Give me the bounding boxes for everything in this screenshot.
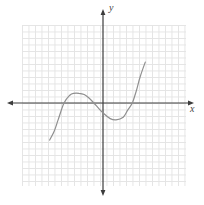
y-axis-bottom-arrow-icon [101,190,106,196]
x-axis-left-arrow-icon [7,101,13,106]
function-curve [50,62,146,140]
function-graph-figure: y x [0,0,204,205]
x-axis-label: x [190,104,194,114]
axes-and-curve-canvas [0,0,204,205]
y-axis-top-arrow-icon [101,9,106,15]
y-axis-label: y [109,3,113,13]
